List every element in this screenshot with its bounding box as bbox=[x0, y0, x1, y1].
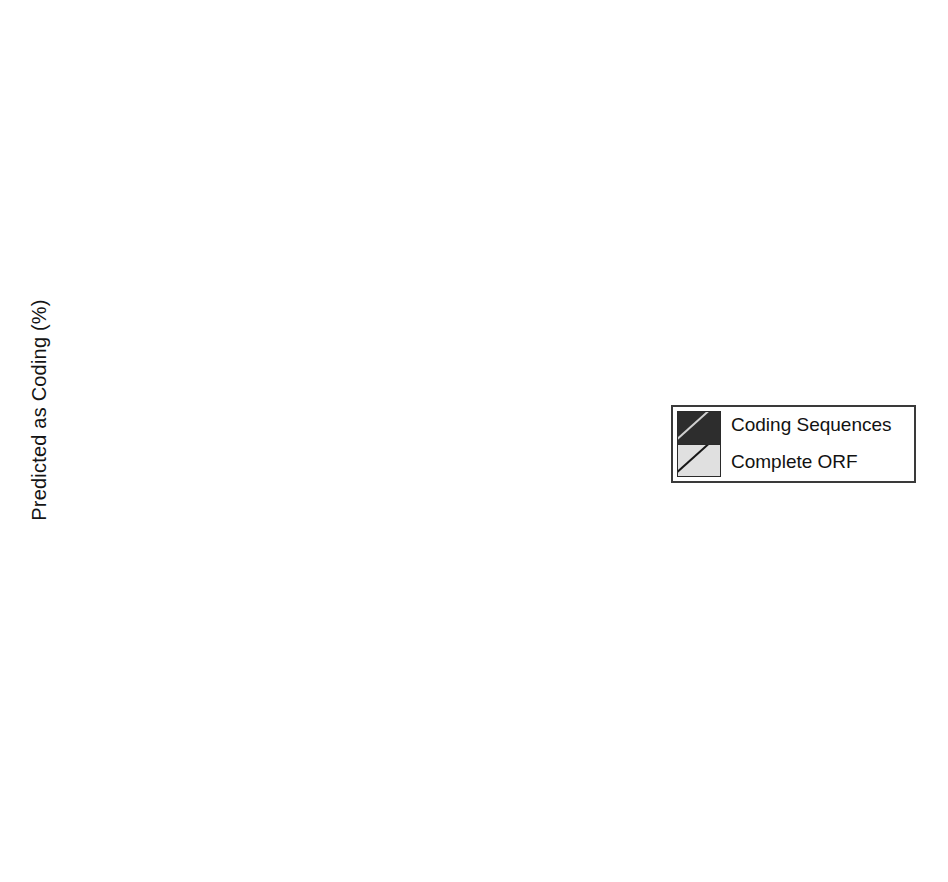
x-axis-tick-labels bbox=[128, 820, 918, 860]
chart-legend: Coding Sequences Complete ORF bbox=[671, 405, 916, 483]
legend-swatches bbox=[677, 411, 721, 477]
y-axis-title: Predicted as Coding (%) bbox=[16, 130, 62, 690]
figure-canvas: Predicted as Coding (%) Coding Sequences… bbox=[0, 0, 948, 882]
legend-labels: Coding Sequences Complete ORF bbox=[721, 407, 914, 481]
legend-swatch-complete-orf bbox=[678, 444, 720, 477]
legend-label-complete-orf: Complete ORF bbox=[731, 452, 914, 473]
legend-swatch-coding-sequences bbox=[678, 412, 720, 444]
legend-label-coding-sequences: Coding Sequences bbox=[731, 415, 914, 436]
